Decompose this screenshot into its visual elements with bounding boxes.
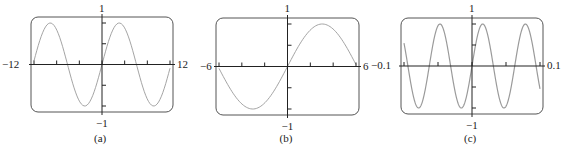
y-max-label: 1 <box>469 3 475 14</box>
x-max-label: 0.1 <box>547 60 561 71</box>
panel-caption: (c) <box>464 133 476 144</box>
plot-area <box>0 0 572 154</box>
x-min-label: −0.1 <box>371 60 391 71</box>
y-min-label: −1 <box>466 120 478 131</box>
panel-c: −0.10.11−1(c) <box>0 0 572 154</box>
